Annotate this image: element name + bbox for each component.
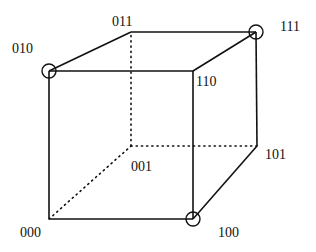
cube-drawing [0, 0, 316, 252]
vertex-label-101: 101 [265, 148, 286, 162]
cube-diagram: 000 100 010 110 001 101 011 111 [0, 0, 316, 252]
vertex-markers [42, 25, 263, 226]
vertex-label-111: 111 [280, 20, 300, 34]
vertex-label-100: 100 [218, 226, 239, 240]
edge-101-100 [193, 146, 257, 219]
edge-111-101 [256, 32, 257, 146]
vertex-label-001: 001 [131, 160, 152, 174]
vertex-label-010: 010 [12, 42, 33, 56]
vertex-label-000: 000 [20, 226, 41, 240]
vertex-label-011: 011 [112, 15, 132, 29]
edge-010-011 [49, 32, 131, 71]
vertex-label-110: 110 [196, 75, 216, 89]
cube-edges [49, 32, 257, 219]
edge-110-111 [193, 32, 256, 71]
edge-000-001 [49, 146, 131, 219]
